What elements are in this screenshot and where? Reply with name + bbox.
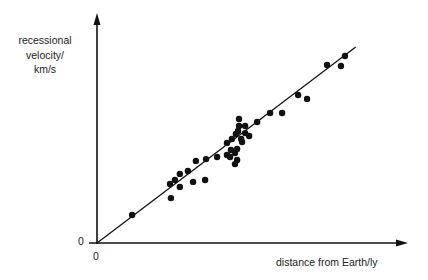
data-point xyxy=(234,146,240,152)
data-point xyxy=(202,177,208,183)
data-point xyxy=(246,133,252,139)
data-point xyxy=(242,123,248,129)
data-point xyxy=(279,110,285,116)
data-point xyxy=(324,62,330,68)
data-point xyxy=(254,119,260,125)
data-point xyxy=(338,63,344,69)
data-point xyxy=(203,156,209,162)
data-point xyxy=(193,158,199,164)
data-point xyxy=(229,136,235,142)
data-point xyxy=(177,184,183,190)
data-point xyxy=(304,96,310,102)
data-point xyxy=(168,195,174,201)
data-point xyxy=(236,123,242,129)
data-point xyxy=(185,168,191,174)
data-point xyxy=(177,171,183,177)
data-point xyxy=(190,179,196,185)
data-point xyxy=(342,53,348,59)
y-axis xyxy=(94,13,101,244)
data-point xyxy=(172,177,178,183)
data-point xyxy=(239,139,245,145)
data-point xyxy=(267,110,273,116)
data-point xyxy=(295,92,301,98)
y-axis-arrow-icon xyxy=(94,13,101,25)
data-point xyxy=(129,212,135,218)
data-point xyxy=(227,154,233,160)
data-point xyxy=(236,116,242,122)
data-point xyxy=(234,157,240,163)
x-axis-arrow-icon xyxy=(396,240,408,247)
scatter-plot xyxy=(0,0,428,280)
data-point xyxy=(214,154,220,160)
x-axis xyxy=(89,240,408,247)
